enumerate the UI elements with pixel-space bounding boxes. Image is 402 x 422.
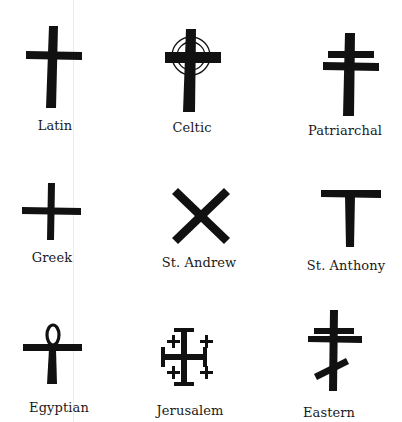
- st-andrew-cross-icon: [172, 188, 230, 244]
- label-st-andrew: St. Andrew: [162, 255, 237, 270]
- label-greek: Greek: [32, 250, 72, 265]
- label-patriarchal: Patriarchal: [308, 123, 382, 138]
- label-egyptian: Egyptian: [29, 400, 89, 415]
- egyptian-ankh-icon: [23, 325, 82, 384]
- crosses-drawing: [0, 0, 402, 422]
- label-st-anthony: St. Anthony: [307, 258, 385, 273]
- eastern-cross-icon: [308, 310, 362, 391]
- jerusalem-cross-icon: [161, 328, 213, 386]
- label-celtic: Celtic: [172, 120, 211, 135]
- label-eastern: Eastern: [303, 405, 355, 420]
- patriarchal-cross-icon: [323, 33, 379, 116]
- latin-cross-icon: [26, 26, 82, 108]
- celtic-cross-icon: [165, 29, 221, 112]
- label-latin: Latin: [38, 118, 73, 133]
- label-jerusalem: Jerusalem: [157, 403, 224, 418]
- st-anthony-cross-icon: [321, 190, 381, 247]
- cross-chart: Latin Celtic Patriarchal Greek St. Andre…: [0, 0, 402, 422]
- greek-cross-icon: [22, 183, 81, 240]
